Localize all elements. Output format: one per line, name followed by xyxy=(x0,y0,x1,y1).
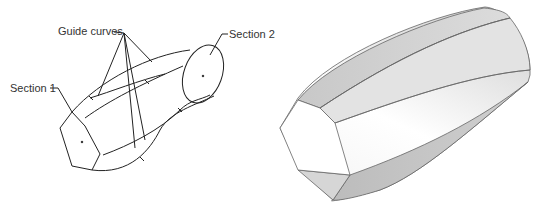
label-section-1: Section 1 xyxy=(10,82,56,94)
section-1-hexagon xyxy=(60,112,100,170)
label-guide-curves: Guide curves xyxy=(58,25,123,37)
loft-illustration: Guide curves Section 1 Section 2 xyxy=(0,0,542,210)
wireframe-loft xyxy=(50,32,231,171)
guide-curve-bottom xyxy=(92,96,214,171)
guide-curve-lower xyxy=(103,95,210,155)
shaded-loft xyxy=(280,7,530,201)
label-section-2: Section 2 xyxy=(229,28,275,40)
